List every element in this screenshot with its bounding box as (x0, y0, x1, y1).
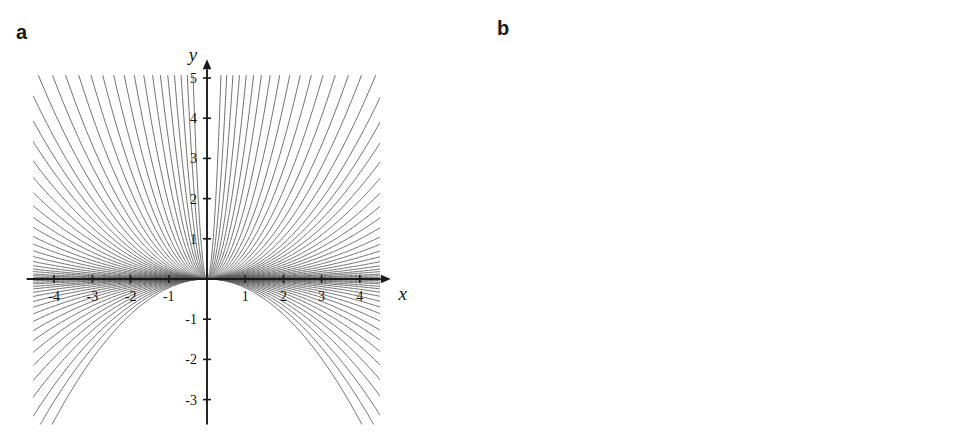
y-axis-label: y (187, 44, 198, 65)
y-tick-label: 3 (190, 151, 197, 166)
x-axis-label: x (398, 283, 408, 304)
y-tick-label: 4 (190, 111, 197, 126)
parabola-curve (38, 75, 207, 279)
y-tick-label: 2 (190, 192, 197, 207)
panel-b-plot: z01020304050t20-2-4x-4-2024 (482, 0, 964, 445)
y-tick-label: -2 (185, 352, 197, 367)
x-tick-label: -4 (48, 289, 60, 304)
x-tick-label: 2 (280, 289, 287, 304)
x-tick-label: 3 (318, 289, 325, 304)
parabola-curve (207, 279, 374, 425)
x-tick-label: 4 (356, 289, 363, 304)
x-tick-label: -2 (125, 289, 137, 304)
parabola-curve (193, 75, 207, 279)
x-tick-label: -3 (87, 289, 99, 304)
parabola-curve (153, 75, 207, 279)
figure-container: a -4-3-2-1123454321-1-2-3xy b z010203040… (0, 0, 964, 445)
panel-b: b z01020304050t20-2-4x-4-2024 (482, 0, 964, 445)
y-tick-label: -1 (185, 312, 197, 327)
parabola-curve (207, 279, 381, 397)
x-tick-label: -1 (163, 289, 175, 304)
parabola-curve (33, 161, 207, 279)
y-tick-label: -3 (185, 393, 197, 408)
parabola-curve (40, 279, 207, 425)
y-axis-arrowhead (203, 59, 212, 69)
panel-a: a -4-3-2-1123454321-1-2-3xy (0, 0, 482, 445)
y-tick-label: 1 (190, 232, 197, 247)
x-axis-arrowhead (381, 275, 391, 284)
panel-a-plot: -4-3-2-1123454321-1-2-3xy (0, 0, 482, 445)
parabola-curve (207, 75, 376, 279)
panel-a-axes: -4-3-2-1123454321-1-2-3xy (27, 44, 408, 424)
parabola-curve (207, 75, 221, 279)
x-tick-label: 1 (242, 289, 249, 304)
parabola-curve (207, 75, 261, 279)
parabola-curve (207, 161, 381, 279)
y-tick-label: 5 (190, 71, 197, 86)
